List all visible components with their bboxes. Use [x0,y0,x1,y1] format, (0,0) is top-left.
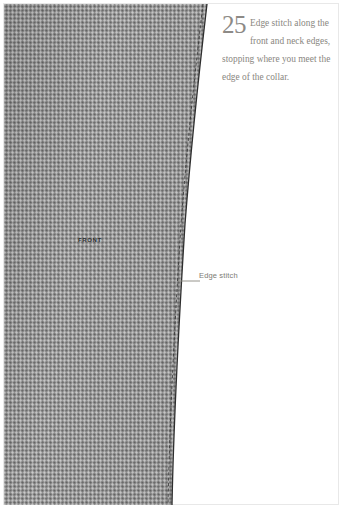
fabric-piece-label: FRONT [78,237,102,243]
instruction-block: 25 Edge stitch along the front and neck … [222,12,338,84]
step-number: 25 [222,13,246,36]
illustration-page: FRONT Edge stitch 25 Edge stitch along t… [0,0,343,509]
edge-stitch-dashed-line [168,4,203,505]
callout-label-edge-stitch: Edge stitch [199,271,238,280]
front-edge-line [172,4,207,505]
